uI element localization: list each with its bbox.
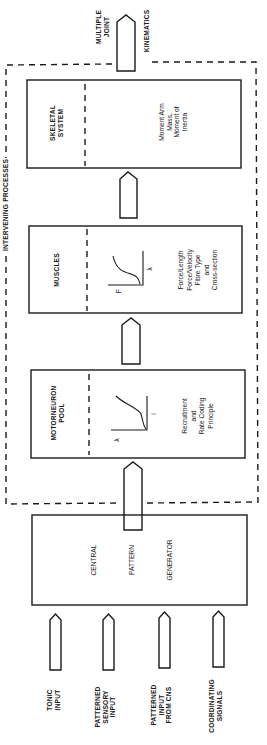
muscles-force-length-graph-icon: [108, 251, 143, 285]
arrow-muscles-to-skeletal-icon: [120, 172, 137, 218]
cpg-label-pattern: PATTERN: [128, 530, 136, 590]
input-label-patterned-sensory: PATTERNED SENSORY INPUT: [94, 679, 117, 735]
arrow-patterned-input-cns-icon: [159, 612, 170, 668]
arrow-coordinating-signals-icon: [213, 611, 224, 667]
cpg-label-generator: GENERATOR: [166, 528, 174, 592]
motorneuron-properties: Recruitment and Rate Coding Principle: [181, 386, 215, 446]
muscles-graph-x-label: λ: [146, 264, 154, 274]
arrow-motorneuron-to-muscles-icon: [122, 318, 140, 364]
muscles-graph-y-label: F: [115, 286, 123, 296]
input-label-coordinating-signals: COORDINATING SIGNALS: [208, 672, 223, 740]
motorneuron-graph-y-label: λ: [113, 435, 121, 445]
muscles-properties: Force/Length Force/Velocity Fibre Type a…: [177, 232, 220, 308]
arrow-output-icon: [117, 15, 135, 71]
output-label-kinematics: KINEMATICS: [143, 6, 151, 56]
arrow-patterned-sensory-input-icon: [103, 614, 114, 670]
skeletal-properties: Moment Arm Mass, Moment of Inertia: [158, 92, 188, 152]
arrow-cpg-to-motorneuron-icon: [124, 462, 142, 530]
cpg-label-central: CENTRAL: [90, 530, 98, 590]
muscles-title: MUSCLES: [53, 250, 61, 290]
diagram-canvas: [0, 0, 267, 745]
skeletal-system-title: SKELETAL SYSTEM: [49, 100, 64, 146]
motorneuron-pool-title: MOTORNEURON POOL: [50, 378, 65, 448]
motorneuron-recruitment-graph-icon: [111, 396, 147, 430]
motorneuron-graph-x-label: i: [150, 409, 158, 419]
central-pattern-generator-box: [32, 515, 247, 605]
arrow-tonic-input-icon: [50, 614, 61, 670]
intervening-processes-boundary: [6, 62, 258, 504]
input-label-tonic: TONIC INPUT: [46, 680, 61, 720]
output-label-multiple-joint: MULTIPLE JOINT: [95, 2, 110, 52]
input-label-patterned-cns: PATTERNED INPUT FROM CNS: [150, 677, 173, 733]
intervening-processes-label: INTERVENING PROCESSES: [2, 162, 10, 252]
